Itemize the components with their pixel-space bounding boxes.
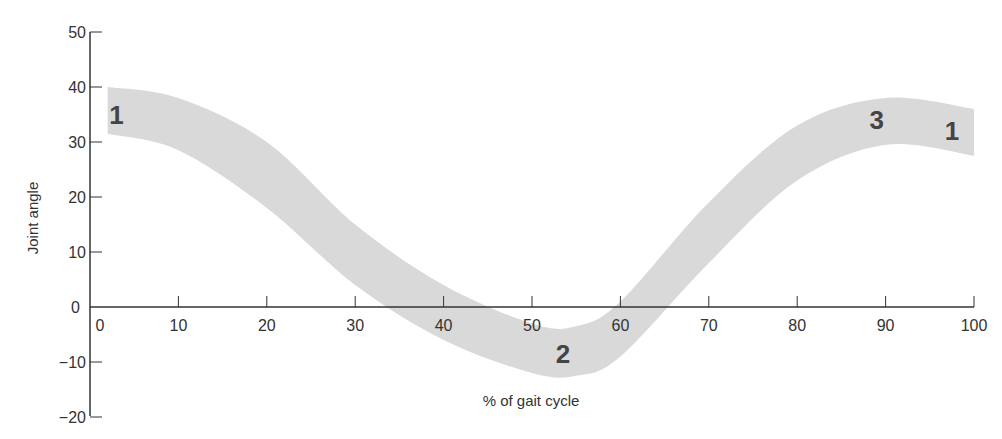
gait-chart: 0102030405060708090100 50403020100−10−20… <box>0 0 1002 439</box>
y-tick-label: 50 <box>68 24 86 41</box>
y-tick-label: 40 <box>68 79 86 96</box>
x-tick-label: 60 <box>612 317 630 334</box>
x-tick-label: 40 <box>435 317 453 334</box>
y-tick-label: 30 <box>68 134 86 151</box>
phase-label: 1 <box>109 100 123 130</box>
x-tick-label: 70 <box>700 317 718 334</box>
phase-label: 2 <box>556 339 570 369</box>
band-area <box>108 87 974 378</box>
x-tick-label: 80 <box>788 317 806 334</box>
x-tick-label: 20 <box>258 317 276 334</box>
phase-label: 1 <box>945 116 959 146</box>
x-tick-label: 50 <box>523 317 541 334</box>
x-tick-label: 90 <box>877 317 895 334</box>
y-tick-label: 0 <box>71 299 80 316</box>
joint-angle-band <box>108 87 974 378</box>
x-tick-label: 0 <box>96 317 105 334</box>
phase-label: 3 <box>870 105 884 135</box>
x-tick-label: 30 <box>346 317 364 334</box>
y-tick-label: 10 <box>68 244 86 261</box>
y-tick-label: 20 <box>68 189 86 206</box>
y-ticks: 50403020100−10−20 <box>59 24 102 426</box>
x-tick-label: 100 <box>961 317 988 334</box>
x-axis-label: % of gait cycle <box>483 392 580 409</box>
y-tick-label: −20 <box>59 409 86 426</box>
y-tick-label: −10 <box>59 354 86 371</box>
y-axis-label: Joint angle <box>24 182 41 255</box>
x-tick-label: 10 <box>170 317 188 334</box>
